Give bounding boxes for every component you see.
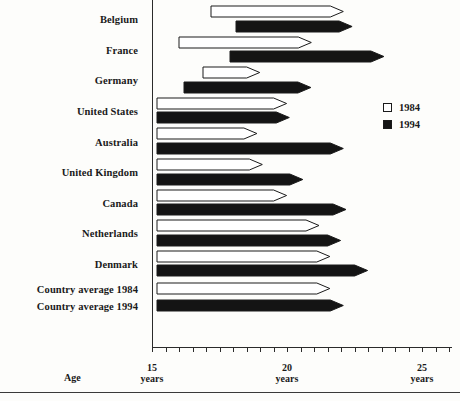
x-axis-tick	[274, 348, 275, 352]
legend-item-1984: 1984	[383, 100, 420, 114]
legend-label-1994: 1994	[399, 119, 420, 130]
x-axis-tick	[409, 348, 410, 352]
category-label: Australia	[95, 136, 138, 147]
x-tick-label: 25years	[392, 362, 452, 384]
x-axis-tick	[341, 348, 342, 352]
legend-swatch-open-icon	[383, 103, 392, 112]
bar-1994	[236, 21, 352, 32]
x-axis-tick	[260, 348, 261, 352]
x-axis-tick	[422, 348, 423, 352]
bar-1984	[211, 6, 343, 17]
x-axis-tick	[368, 348, 369, 352]
bar-1994	[157, 174, 303, 185]
x-axis-tick	[152, 348, 153, 352]
bar-1984	[157, 251, 330, 262]
legend-swatch-filled-icon	[383, 120, 392, 129]
category-label: France	[106, 44, 138, 55]
legend-label-1984: 1984	[399, 102, 420, 113]
category-label: Netherlands	[82, 228, 138, 239]
bar-1994	[157, 300, 343, 311]
legend-item-1994: 1994	[383, 117, 420, 131]
x-axis-tick	[179, 348, 180, 352]
bottom-divider	[0, 392, 460, 393]
chart-page: BelgiumFranceGermanyUnited StatesAustral…	[0, 0, 460, 401]
x-axis-tick	[449, 348, 450, 352]
bar-1994	[157, 112, 289, 123]
category-label: Germany	[95, 75, 138, 86]
x-axis-tick	[233, 348, 234, 352]
x-axis-tick	[193, 348, 194, 352]
x-axis-tick	[206, 348, 207, 352]
x-tick-label: 20years	[257, 362, 317, 384]
x-axis-line	[152, 347, 452, 348]
bar-1994	[157, 235, 341, 246]
category-label: United States	[77, 106, 138, 117]
y-axis-line	[152, 0, 153, 348]
bar-1984	[157, 98, 287, 109]
x-axis-tick	[301, 348, 302, 352]
x-tick-label: 15years	[122, 362, 182, 384]
category-label: United Kingdom	[62, 167, 138, 178]
category-label: Country average 1984	[37, 284, 138, 295]
category-label: Country average 1994	[37, 300, 138, 311]
bar-1984	[203, 67, 260, 78]
x-axis-title: Age	[64, 372, 81, 383]
chart-legend: 1984 1994	[383, 100, 420, 134]
x-axis-tick	[395, 348, 396, 352]
bar-1994	[157, 204, 346, 215]
bar-1984	[157, 220, 319, 231]
bar-1994	[157, 265, 368, 276]
bar-1994	[157, 143, 343, 154]
x-axis-tick	[355, 348, 356, 352]
x-axis-tick	[247, 348, 248, 352]
x-axis-tick	[314, 348, 315, 352]
x-axis-tick	[220, 348, 221, 352]
bar-1984	[157, 159, 262, 170]
x-axis-tick	[328, 348, 329, 352]
category-label: Denmark	[95, 259, 138, 270]
x-axis-tick	[436, 348, 437, 352]
x-axis-tick	[287, 348, 288, 352]
category-axis-labels: BelgiumFranceGermanyUnited StatesAustral…	[0, 0, 146, 340]
bar-1994	[230, 51, 384, 62]
bar-1984	[157, 283, 330, 294]
category-label: Belgium	[100, 14, 138, 25]
plot-area	[152, 0, 452, 348]
x-axis-tick	[382, 348, 383, 352]
bar-1984	[157, 190, 287, 201]
category-label: Canada	[102, 197, 138, 208]
bar-1994	[184, 82, 311, 93]
bar-1984	[157, 128, 257, 139]
bar-1984	[179, 37, 311, 48]
x-axis-tick	[166, 348, 167, 352]
